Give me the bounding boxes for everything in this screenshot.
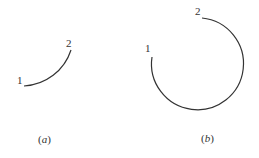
arc-a-start-label: 1	[17, 74, 23, 86]
figure-b: 1 2 (b)	[145, 5, 243, 145]
arc-b-start-label: 1	[145, 42, 151, 54]
arc-a-end-label: 2	[66, 37, 72, 49]
arc-b	[151, 18, 243, 110]
figure-a: 1 2 (a)	[17, 37, 72, 146]
caption-b: (b)	[201, 132, 214, 145]
diagram-svg: 1 2 (a) 1 2 (b)	[0, 0, 259, 158]
arc-a	[24, 50, 71, 86]
arc-b-end-label: 2	[195, 5, 201, 17]
diagram-canvas: 1 2 (a) 1 2 (b)	[0, 0, 259, 158]
caption-a: (a)	[38, 133, 51, 146]
